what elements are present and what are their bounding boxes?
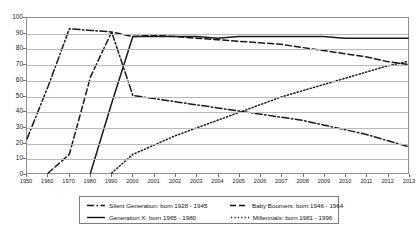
legend-label: Silent Generation: born 1928 - 1945 (109, 202, 207, 209)
x-axis-tick-mark (90, 174, 91, 177)
gridline (27, 97, 408, 98)
x-axis-tick-label: 2004 (211, 178, 223, 184)
gridline (27, 159, 408, 160)
x-axis-tick-mark (303, 174, 304, 177)
y-axis: 0102030405060708090100 (0, 17, 26, 174)
y-axis-tick-label: 20 (16, 140, 23, 147)
x-axis-tick-label: 2009 (318, 178, 330, 184)
x-axis-tick-mark (175, 174, 176, 177)
legend: Silent Generation: born 1928 - 1945 Baby… (79, 196, 339, 224)
gridline (27, 49, 408, 50)
x-axis-tick-label: 2007 (275, 178, 287, 184)
x-axis-tick-label: 2003 (190, 178, 202, 184)
x-axis-tick-label: 1990 (105, 178, 117, 184)
y-axis-tick-label: 90 (16, 30, 23, 37)
legend-row: Generation X: born 1965 - 1980 Millennia… (80, 211, 338, 223)
series-layer (27, 18, 408, 173)
x-axis-tick-mark (26, 174, 27, 177)
x-axis-tick-label: 2008 (296, 178, 308, 184)
x-axis-tick-label: 2012 (381, 178, 393, 184)
legend-label: Generation X: born 1965 - 1980 (109, 214, 196, 221)
gridline (27, 81, 408, 82)
x-axis-tick-label: 1970 (62, 178, 74, 184)
x-axis: 1950196019701980199020002001200220032004… (26, 174, 409, 190)
y-axis-tick-label: 30 (16, 124, 23, 131)
legend-label: Baby Boomers: born 1946 - 1964 (252, 202, 343, 209)
x-axis-tick-mark (69, 174, 70, 177)
x-axis-tick-label: 2006 (254, 178, 266, 184)
gridline (27, 144, 408, 145)
x-axis-tick-label: 1950 (20, 178, 32, 184)
series-line (112, 61, 408, 173)
x-axis-tick-label: 1960 (41, 178, 53, 184)
x-axis-tick-mark (132, 174, 133, 177)
gridline (27, 112, 408, 113)
x-axis-tick-label: 2011 (360, 178, 372, 184)
x-axis-tick-mark (239, 174, 240, 177)
line-sample-icon (87, 214, 105, 221)
gridline (27, 128, 408, 129)
x-axis-tick-mark (409, 174, 410, 177)
x-axis-tick-mark (154, 174, 155, 177)
x-axis-tick-label: 2010 (339, 178, 351, 184)
legend-item-baby-boomers[interactable]: Baby Boomers: born 1946 - 1964 (230, 202, 338, 209)
line-sample-icon (231, 214, 249, 221)
x-axis-tick-label: 1980 (84, 178, 96, 184)
x-axis-tick-mark (196, 174, 197, 177)
x-axis-tick-mark (324, 174, 325, 177)
x-axis-tick-mark (218, 174, 219, 177)
x-axis-tick-mark (366, 174, 367, 177)
x-axis-tick-mark (111, 174, 112, 177)
x-axis-tick-label: 2000 (126, 178, 138, 184)
legend-item-millennials[interactable]: Millennials: born 1981 - 1996 (231, 214, 338, 221)
y-axis-tick-label: 10 (16, 155, 23, 162)
line-sample-icon (230, 202, 248, 209)
y-axis-tick-label: 70 (16, 61, 23, 68)
legend-row: Silent Generation: born 1928 - 1945 Baby… (80, 199, 338, 211)
line-sample-icon (87, 202, 105, 209)
x-axis-tick-label: 2002 (169, 178, 181, 184)
y-axis-tick-label: 80 (16, 45, 23, 52)
y-axis-tick-label: 50 (16, 93, 23, 100)
x-axis-tick-mark (281, 174, 282, 177)
gridline (27, 65, 408, 66)
x-axis-tick-label: 2013 (403, 178, 415, 184)
y-axis-tick-label: 40 (16, 108, 23, 115)
x-axis-tick-mark (47, 174, 48, 177)
x-axis-tick-mark (260, 174, 261, 177)
gridline (27, 34, 408, 35)
chart-screenshot: 0102030405060708090100 19501960197019801… (0, 0, 417, 233)
plot-area (26, 17, 409, 174)
legend-item-silent-generation[interactable]: Silent Generation: born 1928 - 1945 (80, 202, 230, 209)
y-axis-tick-label: 60 (16, 77, 23, 84)
series-line (27, 29, 408, 147)
x-axis-tick-label: 2001 (147, 178, 159, 184)
y-axis-tick-label: 100 (12, 14, 23, 21)
legend-item-generation-x[interactable]: Generation X: born 1965 - 1980 (80, 214, 231, 221)
x-axis-tick-label: 2005 (233, 178, 245, 184)
series-line (48, 32, 408, 173)
x-axis-tick-mark (345, 174, 346, 177)
x-axis-tick-mark (388, 174, 389, 177)
legend-label: Millennials: born 1981 - 1996 (253, 214, 332, 221)
